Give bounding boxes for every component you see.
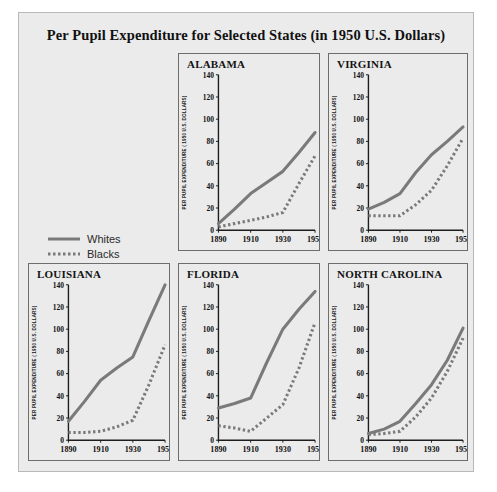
x-tick-label: 1950 — [455, 235, 467, 244]
y-tick-label: 140 — [203, 281, 214, 290]
legend-row-whites: Whites — [47, 231, 177, 246]
y-axis-label: PER PUPIL EXPENDITURE ( 1950 U.S. DOLLAR… — [332, 95, 337, 209]
y-tick-label: 40 — [57, 392, 65, 401]
x-tick-label: 1890 — [210, 445, 226, 454]
y-tick-label: 100 — [203, 325, 214, 334]
x-tick-label: 1950 — [455, 445, 467, 454]
x-tick-label: 1890 — [60, 445, 76, 454]
y-tick-label: 60 — [57, 369, 65, 378]
x-tick-label: 1950 — [307, 235, 319, 244]
figure-legend: Whites Blacks — [47, 231, 177, 261]
y-tick-label: 120 — [353, 93, 364, 102]
y-tick-label: 100 — [53, 325, 64, 334]
chart-panel-north-carolina: NORTH CAROLINA 0204060801001201401890191… — [328, 263, 468, 461]
chart-panel-alabama: ALABAMA 02040608010012014018901910193019… — [178, 53, 320, 251]
legend-label-blacks: Blacks — [87, 248, 119, 260]
x-tick-label: 1890 — [360, 445, 376, 454]
chart-panel-virginia: VIRGINIA 0204060801001201401890191019301… — [328, 53, 468, 251]
y-tick-label: 140 — [203, 71, 214, 80]
x-tick-label: 1910 — [392, 235, 408, 244]
legend-row-blacks: Blacks — [47, 246, 177, 261]
x-tick-label: 1930 — [125, 445, 141, 454]
chart-panel-louisiana: LOUISIANA 020406080100120140189019101930… — [28, 263, 170, 461]
y-tick-label: 100 — [353, 325, 364, 334]
y-tick-label: 120 — [203, 303, 214, 312]
y-tick-label: 60 — [357, 369, 365, 378]
plot-florida: 0204060801001201401890191019301950PER PU… — [179, 264, 319, 460]
y-tick-label: 80 — [207, 347, 215, 356]
x-tick-label: 1930 — [423, 445, 439, 454]
y-tick-label: 120 — [353, 303, 364, 312]
series-line-whites — [368, 127, 463, 209]
x-tick-label: 1910 — [392, 445, 408, 454]
y-axis-label: PER PUPIL EXPENDITURE ( 1950 U.S. DOLLAR… — [332, 305, 337, 419]
y-tick-label: 60 — [207, 369, 215, 378]
y-tick-label: 40 — [357, 182, 365, 191]
series-line-whites — [68, 285, 165, 422]
y-tick-label: 60 — [357, 159, 365, 168]
legend-swatch-blacks-dotted-line — [47, 249, 81, 259]
x-tick-label: 1930 — [275, 235, 291, 244]
y-tick-label: 100 — [353, 115, 364, 124]
x-tick-label: 1930 — [275, 445, 291, 454]
series-line-whites — [218, 291, 315, 408]
y-axis-label: PER PUPIL EXPENDITURE ( 1950 U.S. DOLLAR… — [182, 305, 187, 419]
y-tick-label: 80 — [357, 347, 365, 356]
series-line-blacks — [218, 156, 315, 227]
y-tick-label: 140 — [353, 71, 364, 80]
x-tick-label: 1950 — [157, 445, 169, 454]
x-tick-label: 1910 — [93, 445, 109, 454]
y-tick-label: 80 — [357, 137, 365, 146]
y-tick-label: 20 — [207, 204, 215, 213]
legend-label-whites: Whites — [87, 233, 121, 245]
plot-north-carolina: 0204060801001201401890191019301950PER PU… — [329, 264, 467, 460]
x-tick-label: 1930 — [423, 235, 439, 244]
y-tick-label: 140 — [353, 281, 364, 290]
figure-container: Per Pupil Expenditure for Selected State… — [18, 12, 474, 472]
plot-alabama: 0204060801001201401890191019301950PER PU… — [179, 54, 319, 250]
y-tick-label: 40 — [207, 392, 215, 401]
y-tick-label: 20 — [357, 204, 365, 213]
y-tick-label: 120 — [53, 303, 64, 312]
y-tick-label: 100 — [203, 115, 214, 124]
y-tick-label: 80 — [207, 137, 215, 146]
series-line-blacks — [218, 323, 315, 432]
legend-swatch-whites-solid-line — [47, 234, 81, 244]
y-tick-label: 60 — [207, 159, 215, 168]
x-tick-label: 1890 — [360, 235, 376, 244]
y-axis-label: PER PUPIL EXPENDITURE ( 1950 U.S. DOLLAR… — [32, 305, 37, 419]
y-tick-label: 40 — [357, 392, 365, 401]
series-line-blacks — [68, 345, 165, 433]
x-tick-label: 1890 — [210, 235, 226, 244]
y-tick-label: 20 — [357, 414, 365, 423]
series-line-whites — [368, 328, 463, 433]
y-tick-label: 20 — [207, 414, 215, 423]
x-tick-label: 1950 — [307, 445, 319, 454]
y-tick-label: 120 — [203, 93, 214, 102]
y-tick-label: 40 — [207, 182, 215, 191]
y-tick-label: 140 — [53, 281, 64, 290]
y-tick-label: 80 — [57, 347, 65, 356]
y-tick-label: 20 — [57, 414, 65, 423]
plot-virginia: 0204060801001201401890191019301950PER PU… — [329, 54, 467, 250]
x-tick-label: 1910 — [243, 445, 259, 454]
series-line-blacks — [368, 338, 463, 435]
y-axis-label: PER PUPIL EXPENDITURE ( 1950 U.S. DOLLAR… — [182, 95, 187, 209]
plot-louisiana: 0204060801001201401890191019301950PER PU… — [29, 264, 169, 460]
chart-panel-florida: FLORIDA 02040608010012014018901910193019… — [178, 263, 320, 461]
x-tick-label: 1910 — [243, 235, 259, 244]
figure-title: Per Pupil Expenditure for Selected State… — [19, 27, 473, 44]
